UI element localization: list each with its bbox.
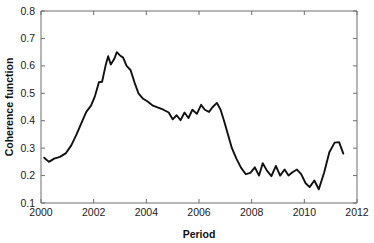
data-series-group (44, 52, 343, 189)
y-axis-ticks: 0.10.20.30.40.50.60.70.8 (20, 5, 357, 209)
y-tick-label: 0.2 (20, 169, 35, 181)
x-tick-label: 2006 (187, 206, 211, 218)
x-axis-title: Period (183, 228, 216, 240)
y-tick-label: 0.3 (20, 142, 35, 154)
chart-figure: 0.10.20.30.40.50.60.70.8 200020022004200… (0, 0, 374, 243)
x-tick-label: 2012 (345, 206, 369, 218)
axis-frame (41, 11, 357, 203)
y-tick-label: 0.4 (20, 114, 35, 126)
x-tick-label: 2010 (293, 206, 317, 218)
y-tick-label: 0.7 (20, 32, 35, 44)
plot-axes (41, 11, 357, 203)
coherence-data-line (44, 52, 343, 189)
x-tick-label: 2002 (82, 206, 106, 218)
y-tick-label: 0.8 (20, 5, 35, 17)
y-tick-label: 0.5 (20, 87, 35, 99)
coherence-line-chart: 0.10.20.30.40.50.60.70.8 200020022004200… (0, 0, 374, 243)
y-axis-title: Coherence function (3, 58, 15, 157)
x-tick-label: 2008 (240, 206, 264, 218)
x-tick-label: 2004 (135, 206, 159, 218)
x-tick-label: 2000 (29, 206, 53, 218)
y-tick-label: 0.6 (20, 59, 35, 71)
